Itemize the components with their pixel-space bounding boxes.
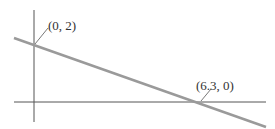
graph-canvas: (0, 2) (6.3, 0) [0, 0, 275, 129]
y-intercept-leader [35, 28, 48, 44]
y-intercept-label: (0, 2) [48, 18, 76, 33]
x-intercept-label: (6.3, 0) [196, 78, 234, 93]
